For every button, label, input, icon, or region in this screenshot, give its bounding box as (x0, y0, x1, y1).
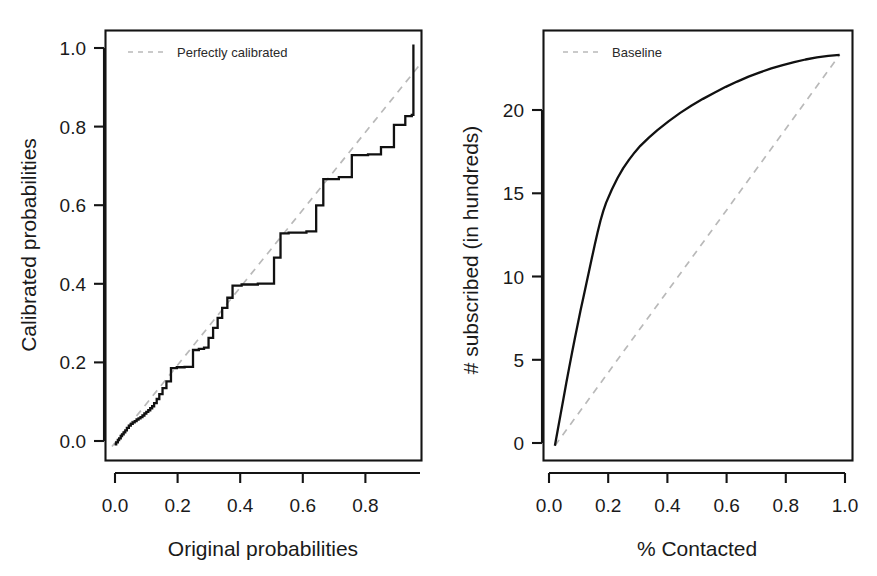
lift-xtick-4: 0.8 (773, 495, 799, 516)
panel-lift: 20 15 10 5 0 0.0 0.2 0.4 0.6 0.8 1.0 (0, 0, 877, 576)
lift-legend: Baseline (563, 45, 662, 60)
baseline-reference-line (555, 55, 840, 446)
lift-plot-frame (544, 31, 853, 461)
lift-curve (555, 55, 840, 446)
lift-ytick-4: 20 (503, 100, 524, 121)
lift-xtick-2: 0.4 (654, 495, 681, 516)
lift-ytick-1: 5 (513, 350, 524, 371)
lift-ytick-0: 0 (513, 433, 524, 454)
lift-plot-svg: 20 15 10 5 0 0.0 0.2 0.4 0.6 0.8 1.0 (0, 0, 877, 576)
lift-y-axis (532, 110, 542, 443)
figure-canvas: 1.0 0.8 0.6 0.4 0.2 0.0 0.0 0.2 0.4 0.6 … (0, 0, 877, 576)
lift-xtick-3: 0.6 (713, 495, 739, 516)
lift-x-axis (549, 473, 845, 483)
lift-xtick-1: 0.2 (595, 495, 621, 516)
lift-xlabel: % Contacted (637, 537, 757, 560)
lift-ylabel: # subscribed (in hundreds) (459, 126, 482, 375)
lift-ytick-3: 15 (503, 183, 524, 204)
lift-xtick-5: 1.0 (832, 495, 858, 516)
lift-ytick-2: 10 (503, 267, 524, 288)
lift-xtick-0: 0.0 (536, 495, 562, 516)
lift-legend-label: Baseline (612, 45, 662, 60)
